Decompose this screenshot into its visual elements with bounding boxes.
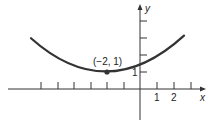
x-axis-arrow-icon bbox=[200, 87, 206, 92]
y-tick-label-1: 1 bbox=[132, 67, 138, 78]
y-axis-label: y bbox=[144, 3, 151, 14]
vertex-point bbox=[104, 69, 109, 74]
y-axis-arrow-icon bbox=[138, 4, 143, 10]
vertex-label: (−2, 1) bbox=[93, 56, 122, 67]
parabola-graph: (−2, 1) 1 2 1 x y bbox=[0, 0, 211, 124]
x-tick-label-2: 2 bbox=[171, 92, 177, 103]
x-ticks bbox=[41, 82, 191, 89]
x-tick-label-1: 1 bbox=[154, 92, 160, 103]
x-axis-label: x bbox=[199, 92, 206, 103]
